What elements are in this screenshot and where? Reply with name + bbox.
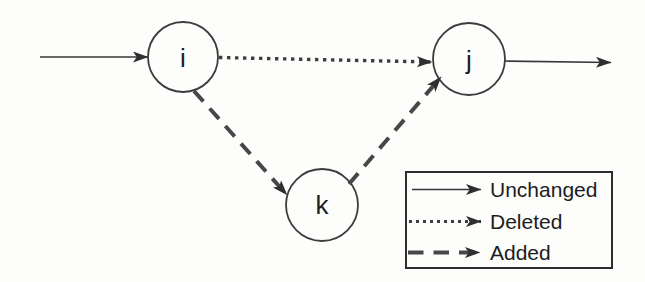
edge-k-to-j-added — [349, 77, 441, 184]
node-k-label: k — [316, 190, 330, 220]
edge-i-to-j-deleted — [219, 58, 432, 63]
legend: Unchanged Deleted Added — [406, 172, 612, 268]
diagram-canvas: i j k Unchanged Deleted Added — [0, 0, 645, 282]
edge-i-to-k-added — [194, 91, 287, 195]
node-i-label: i — [180, 43, 186, 73]
legend-label-added: Added — [490, 241, 551, 264]
graph-edit-diagram: i j k Unchanged Deleted Added — [0, 0, 645, 282]
legend-label-unchanged: Unchanged — [490, 178, 597, 201]
node-j-label: j — [465, 45, 472, 75]
edge-outgoing-unchanged — [505, 61, 611, 63]
legend-label-deleted: Deleted — [490, 210, 562, 233]
